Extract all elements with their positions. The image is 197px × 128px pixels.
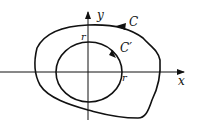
y-axis-label: y: [96, 8, 104, 22]
radius-label-right: r: [122, 72, 128, 83]
curve-c-label: C: [129, 15, 138, 29]
curve-c-prime-label: C′: [120, 41, 132, 55]
x-axis-label: x: [178, 74, 185, 88]
diagram-canvas: y x C C′ r r: [0, 0, 197, 128]
radius-label-top: r: [81, 31, 87, 42]
outer-curve-c: [35, 25, 160, 118]
arrow-icon: [116, 23, 126, 30]
